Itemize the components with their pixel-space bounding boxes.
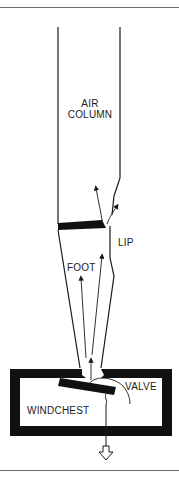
valve-label: VALVE	[125, 381, 157, 392]
foot-label: FOOT	[67, 262, 96, 273]
pipe-foot	[58, 226, 114, 368]
air-column-label-line2: COLUMN	[62, 109, 118, 120]
pull-direction-arrow-icon	[99, 446, 113, 460]
lip-wedge	[58, 220, 106, 230]
air-column-label-line1: AIR	[62, 98, 118, 109]
pipe-body	[58, 27, 120, 224]
windchest-label: WINDCHEST	[27, 405, 89, 416]
lip-label: LIP	[118, 237, 134, 248]
air-column-label: AIR COLUMN	[62, 98, 118, 120]
pull-rod	[105, 394, 106, 446]
pallet-valve	[58, 378, 116, 395]
